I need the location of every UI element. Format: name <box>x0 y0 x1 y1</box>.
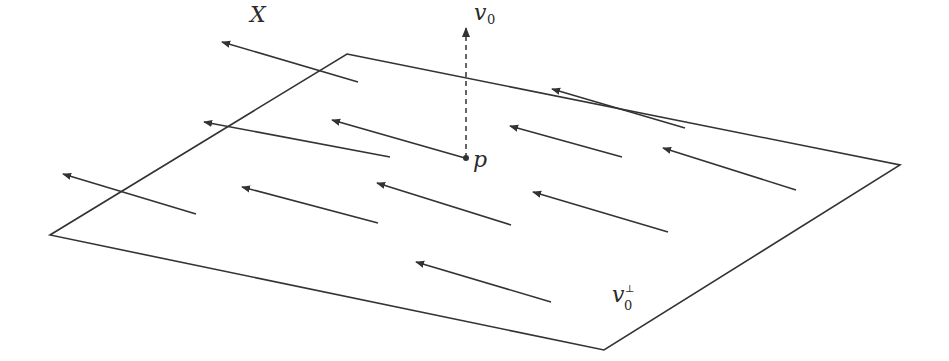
point-p-dot <box>463 155 469 161</box>
vector-field-diagram: X p v 0 v 0 ⊥ <box>0 0 949 361</box>
plane-label-v0-perp: v 0 ⊥ <box>612 282 634 313</box>
vector-field-arrow <box>204 122 390 157</box>
svg-text:0: 0 <box>624 298 632 313</box>
vector-field-arrow <box>332 120 465 158</box>
vector-field-arrow <box>377 183 511 225</box>
vector-field-arrow <box>222 42 358 82</box>
vector-field-arrow <box>63 174 196 214</box>
vector-field-arrow <box>416 262 551 302</box>
svg-text:v: v <box>474 0 487 25</box>
point-label-p: p <box>473 147 487 172</box>
vector-field-arrow <box>552 89 685 128</box>
vector-field-arrow <box>533 192 668 232</box>
field-label-x: X <box>248 2 267 27</box>
vector-field-arrow <box>663 148 796 190</box>
vector-field-arrow <box>510 126 622 157</box>
vector-field-arrows <box>63 42 796 302</box>
svg-text:0: 0 <box>487 12 495 27</box>
svg-text:⊥: ⊥ <box>625 283 634 294</box>
normal-vector-label-v0: v 0 <box>474 0 495 27</box>
vector-field-arrow <box>242 187 378 223</box>
plane-parallelogram <box>50 54 900 350</box>
